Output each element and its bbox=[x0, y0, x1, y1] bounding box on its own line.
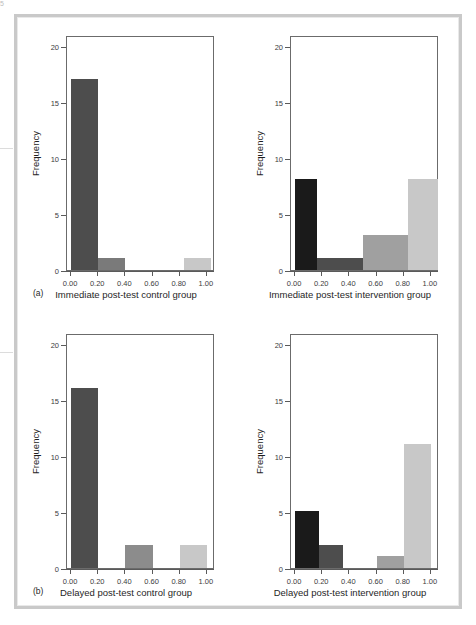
x-axis-tick-label: 0.20 bbox=[90, 577, 105, 586]
figure-page: 5 Frequency051015200.000.200.400.600.801… bbox=[0, 0, 476, 625]
y-axis-tick-label: 15 bbox=[275, 99, 283, 108]
plot-area bbox=[290, 36, 438, 271]
x-axis-title: Delayed post-test control group bbox=[14, 587, 238, 598]
x-axis-tick bbox=[124, 569, 125, 574]
x-axis-tick bbox=[348, 271, 349, 276]
x-axis-tick bbox=[179, 569, 180, 574]
x-axis-tick bbox=[348, 569, 349, 574]
y-axis-tick-label: 5 bbox=[55, 509, 59, 518]
histogram-bar bbox=[377, 556, 404, 568]
x-axis-tick-label: 0.20 bbox=[314, 577, 329, 586]
x-axis: 0.000.200.400.600.801.00 bbox=[66, 569, 214, 587]
x-axis-tick bbox=[124, 271, 125, 276]
x-axis-tick bbox=[430, 271, 431, 276]
x-axis: 0.000.200.400.600.801.00 bbox=[290, 569, 438, 587]
x-axis-tick-label: 0.00 bbox=[287, 577, 302, 586]
histogram-panel-delayed-post-test-intervention-group: Frequency051015200.000.200.400.600.801.0… bbox=[238, 312, 462, 609]
y-axis: 05101520 bbox=[278, 334, 290, 569]
y-axis: 05101520 bbox=[54, 334, 66, 569]
histogram-bar bbox=[98, 258, 125, 270]
x-axis-tick bbox=[179, 271, 180, 276]
y-axis-tick-label: 20 bbox=[275, 341, 283, 350]
x-axis-tick-label: 0.00 bbox=[63, 279, 78, 288]
histogram-bar bbox=[71, 79, 98, 270]
plot-area bbox=[290, 334, 438, 569]
x-axis-tick bbox=[321, 569, 322, 574]
x-axis-tick bbox=[403, 271, 404, 276]
scan-artifact bbox=[0, 148, 13, 149]
x-axis-title: Immediate post-test control group bbox=[14, 289, 238, 300]
x-axis-tick-label: 0.00 bbox=[63, 577, 78, 586]
y-axis-tick-label: 10 bbox=[51, 155, 59, 164]
y-axis-tick-label: 15 bbox=[275, 397, 283, 406]
histogram-bar bbox=[317, 258, 362, 270]
scan-artifact bbox=[0, 352, 13, 353]
bars-container bbox=[291, 37, 437, 270]
histogram-grid: Frequency051015200.000.200.400.600.801.0… bbox=[14, 14, 462, 609]
x-axis-title: Immediate post-test intervention group bbox=[238, 289, 462, 300]
x-axis-tick-label: 0.60 bbox=[368, 577, 383, 586]
histogram-bar bbox=[184, 258, 211, 270]
x-axis-tick-label: 1.00 bbox=[199, 279, 214, 288]
x-axis-line bbox=[290, 569, 438, 570]
x-axis-tick-label: 1.00 bbox=[423, 577, 438, 586]
x-axis-tick-label: 0.20 bbox=[314, 279, 329, 288]
x-axis-tick-label: 1.00 bbox=[199, 577, 214, 586]
y-axis-tick-label: 20 bbox=[51, 43, 59, 52]
y-axis-tick-label: 5 bbox=[279, 211, 283, 220]
y-axis-tick-label: 5 bbox=[55, 211, 59, 220]
histogram-panel-immediate-post-test-intervention-group: Frequency051015200.000.200.400.600.801.0… bbox=[238, 14, 462, 311]
y-axis-tick-label: 0 bbox=[279, 267, 283, 276]
y-axis-tick-label: 0 bbox=[55, 267, 59, 276]
plot-area bbox=[66, 36, 214, 271]
x-axis-tick bbox=[70, 271, 71, 276]
x-axis-tick bbox=[206, 271, 207, 276]
histogram-bar bbox=[295, 511, 319, 568]
histogram-bar bbox=[180, 545, 207, 568]
x-axis-tick bbox=[206, 569, 207, 574]
x-axis-tick-label: 1.00 bbox=[423, 279, 438, 288]
y-axis-tick-label: 0 bbox=[279, 565, 283, 574]
x-axis-tick-label: 0.80 bbox=[395, 577, 410, 586]
x-axis-tick-label: 0.60 bbox=[368, 279, 383, 288]
y-axis-title: Frequency bbox=[254, 36, 266, 271]
x-axis-tick bbox=[403, 569, 404, 574]
x-axis-line bbox=[66, 271, 214, 272]
plot-area bbox=[66, 334, 214, 569]
x-axis-tick-label: 0.40 bbox=[341, 577, 356, 586]
x-axis-title: Delayed post-test intervention group bbox=[238, 587, 462, 598]
x-axis-tick bbox=[152, 569, 153, 574]
panel-letter: (b) bbox=[33, 586, 43, 596]
y-axis-title: Frequency bbox=[30, 334, 42, 569]
bars-container bbox=[291, 335, 437, 568]
y-axis-title: Frequency bbox=[30, 36, 42, 271]
x-axis-tick-label: 0.40 bbox=[341, 279, 356, 288]
x-axis-tick bbox=[294, 569, 295, 574]
x-axis-tick-label: 0.40 bbox=[117, 577, 132, 586]
x-axis-tick-label: 0.40 bbox=[117, 279, 132, 288]
histogram-panel-immediate-post-test-control-group: Frequency051015200.000.200.400.600.801.0… bbox=[14, 14, 238, 311]
y-axis-tick-label: 5 bbox=[279, 509, 283, 518]
x-axis-tick-label: 0.00 bbox=[287, 279, 302, 288]
x-axis-tick-label: 0.80 bbox=[395, 279, 410, 288]
y-axis-tick-label: 10 bbox=[275, 155, 283, 164]
histogram-bar bbox=[125, 545, 152, 568]
histogram-bar bbox=[404, 444, 431, 568]
x-axis-tick bbox=[430, 569, 431, 574]
x-axis-tick bbox=[321, 271, 322, 276]
x-axis-tick bbox=[97, 569, 98, 574]
x-axis-tick bbox=[152, 271, 153, 276]
x-axis-tick bbox=[97, 271, 98, 276]
bars-container bbox=[67, 335, 213, 568]
x-axis-tick bbox=[70, 569, 71, 574]
histogram-panel-delayed-post-test-control-group: Frequency051015200.000.200.400.600.801.0… bbox=[14, 312, 238, 609]
x-axis: 0.000.200.400.600.801.00 bbox=[66, 271, 214, 289]
y-axis-tick-label: 20 bbox=[275, 43, 283, 52]
y-axis: 05101520 bbox=[54, 36, 66, 271]
y-axis-tick-label: 20 bbox=[51, 341, 59, 350]
y-axis-tick-label: 15 bbox=[51, 99, 59, 108]
x-axis-tick bbox=[376, 271, 377, 276]
y-axis-tick-label: 0 bbox=[55, 565, 59, 574]
x-axis-tick bbox=[294, 271, 295, 276]
x-axis-tick-label: 0.80 bbox=[171, 577, 186, 586]
